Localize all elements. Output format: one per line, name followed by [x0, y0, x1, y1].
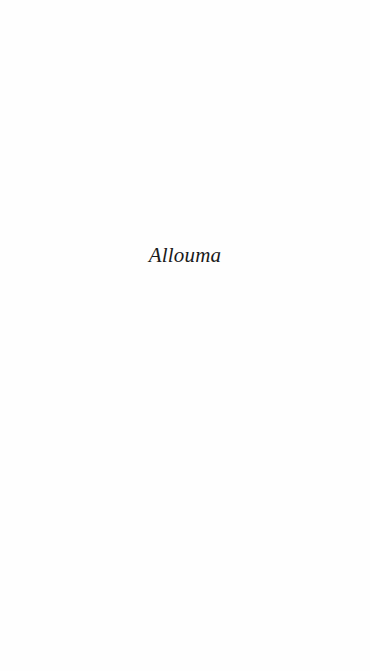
book-page: Allouma [0, 0, 370, 671]
chapter-title: Allouma [0, 241, 370, 269]
